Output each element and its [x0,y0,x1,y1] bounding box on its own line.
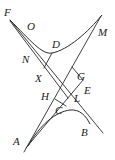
label-C: C [55,104,63,116]
label-A: A [12,135,20,147]
label-N: N [21,53,30,65]
geometry-diagram: F O M D N X G E H L C B A [0,0,115,160]
label-M: M [97,26,108,38]
label-H: H [40,90,50,102]
label-X: X [34,72,43,84]
label-B: B [81,126,88,138]
label-L: L [73,92,80,104]
label-G: G [77,70,85,82]
label-F: F [3,6,11,18]
label-O: O [27,20,35,32]
label-D: D [51,38,60,50]
label-E: E [83,84,91,96]
